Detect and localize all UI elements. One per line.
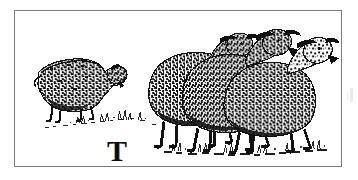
sheep-engraving [15, 11, 341, 166]
scan-artifact [350, 88, 353, 102]
scan-artifact-secondary [347, 91, 348, 100]
drop-cap-letter: T [99, 135, 135, 167]
illustration-frame: T [14, 10, 342, 167]
illustration-page: T [0, 0, 358, 180]
